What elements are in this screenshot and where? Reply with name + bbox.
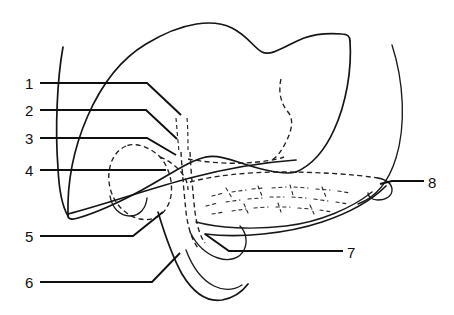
anatomy-figure: 1 2 3 4 5 6 7 8 [0,0,454,315]
falciform-ligament-hidden-line [272,79,292,160]
leader-lines-group [40,83,424,282]
label-number-4: 4 [25,163,33,178]
label-number-6: 6 [25,275,33,290]
anatomy-drawing [0,0,454,315]
leader-line-2 [40,110,177,139]
label-number-8: 8 [428,175,436,190]
leader-line-5 [40,212,163,236]
label-number-2: 2 [25,103,33,118]
label-number-7: 7 [347,245,355,260]
label-number-5: 5 [25,229,33,244]
duodenum-outer-wall [158,212,248,300]
omentum-group [68,160,386,236]
liver-inferior-left-border [68,157,206,219]
gallbladder-fundus-arc [110,196,147,216]
pancreas-group [190,172,392,260]
liver-superior-border [68,23,350,216]
lesser-omentum-left-fold [68,160,296,214]
leader-line-8 [380,181,424,184]
label-number-3: 3 [25,131,33,146]
common-bile-duct-right-wall [190,152,205,243]
liver-group [57,23,351,219]
gallbladder-body-outline [109,145,172,220]
liver-left-margin [57,47,68,216]
liver-right-lobe-edge [296,41,350,172]
biliary-tree-group [176,118,205,248]
pancreas-lobule-texture [206,185,350,214]
right-hepatic-duct [187,118,188,152]
left-hepatic-duct [176,118,179,152]
leader-line-7 [205,234,343,251]
duodenum-group [158,212,248,300]
label-number-1: 1 [25,76,33,91]
leader-line-6 [40,253,180,282]
